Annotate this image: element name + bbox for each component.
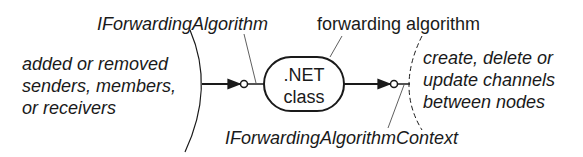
diagram-svg: .NET class IForwardingAlgorithm forwardi… <box>0 0 583 157</box>
component-label-line1: .NET <box>283 65 324 85</box>
output-interface-socket <box>391 81 398 88</box>
input-interface-leader <box>244 34 256 83</box>
output-interface-label: IForwardingAlgorithmContext <box>225 128 459 148</box>
input-label-line1: added or removed <box>22 54 169 74</box>
input-boundary-arc <box>185 30 201 152</box>
input-label-line2: senders, members, <box>22 76 176 96</box>
component-annotation-label: forwarding algorithm <box>317 14 480 34</box>
component-annotation-leader <box>330 36 342 57</box>
output-label-line3: between nodes <box>423 92 545 112</box>
output-boundary-arc <box>409 36 422 130</box>
component-label-line2: class <box>283 87 324 107</box>
input-interface-socket <box>241 81 248 88</box>
output-interface-leader <box>388 85 404 128</box>
input-label-line3: or receivers <box>22 98 116 118</box>
output-label-line1: create, delete or <box>423 48 554 68</box>
input-interface-label: IForwardingAlgorithm <box>97 14 268 34</box>
diagram-canvas: .NET class IForwardingAlgorithm forwardi… <box>0 0 583 157</box>
output-label-line2: update channels <box>423 70 555 90</box>
